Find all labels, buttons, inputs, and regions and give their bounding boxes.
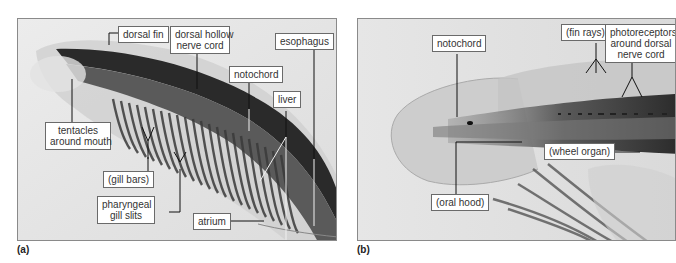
label-dorsal-hollow-nerve-cord-line2: nerve cord	[175, 40, 225, 51]
label-wheel-organ: (wheel organ)	[544, 143, 615, 160]
label-tentacles-around-mouth: tentacles around mouth	[45, 122, 111, 150]
label-tentacles-line2: around mouth	[50, 136, 106, 147]
label-pharyngeal-line2: gill slits	[102, 210, 150, 221]
label-dorsal-hollow-nerve-cord-line1: dorsal hollow	[175, 29, 225, 40]
label-pharyngeal-gill-slits: pharyngeal gill slits	[97, 196, 155, 224]
label-notochord-b: notochord	[432, 35, 486, 52]
panel-letter-a: (a)	[17, 244, 29, 255]
label-tentacles-line1: tentacles	[50, 125, 106, 136]
label-atrium: atrium	[193, 213, 231, 230]
label-photoreceptors-line3: nerve cord	[610, 49, 672, 60]
label-fin-rays: (fin rays)	[561, 24, 610, 41]
label-photoreceptors-line2: around dorsal	[610, 38, 672, 49]
label-oral-hood: (oral hood)	[431, 194, 489, 211]
panel-letter-b: (b)	[357, 244, 370, 255]
label-photoreceptors-around-dorsal-nerve-cord: photoreceptors around dorsal nerve cord	[605, 24, 676, 63]
label-gill-bars: (gill bars)	[103, 171, 154, 188]
panel-a: dorsal fin dorsal hollow nerve cord esop…	[17, 18, 337, 241]
panel-b: notochord (fin rays) photoreceptors arou…	[357, 18, 676, 241]
label-notochord: notochord	[229, 66, 283, 83]
label-liver: liver	[273, 91, 301, 108]
label-dorsal-hollow-nerve-cord: dorsal hollow nerve cord	[170, 26, 230, 54]
label-pharyngeal-line1: pharyngeal	[102, 199, 150, 210]
label-esophagus: esophagus	[275, 33, 334, 50]
label-photoreceptors-line1: photoreceptors	[610, 27, 672, 38]
label-dorsal-fin: dorsal fin	[118, 26, 169, 43]
